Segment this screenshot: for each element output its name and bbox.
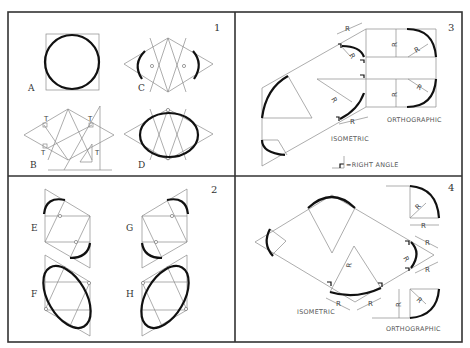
view-label: E [31,223,38,233]
perpendicular-mark: T [40,149,46,157]
dim-label: R [347,52,356,60]
view-b: T T T T B [24,106,114,170]
perpendicular-mark: T [87,115,93,123]
panel-number: 2 [211,184,217,195]
view-label: C [138,83,145,93]
dim-label: R [415,296,424,305]
isometric-label: ISOMETRIC [331,135,369,143]
view-c: C [124,38,213,93]
panel-1: 1 A C [24,22,220,170]
dim-label: R [336,300,341,308]
view-label: B [30,160,37,170]
view-g: G [126,189,188,268]
dim-label: R [345,262,354,268]
dim-label: R [425,239,430,247]
orthographic-label: ORTHOGRAPHIC [387,116,442,124]
right-angle-legend: =RIGHT ANGLE [346,161,399,169]
perpendicular-mark: T [94,149,100,157]
panel-4: 4 R R R R R R R R [255,182,454,333]
orthographic-label: ORTHOGRAPHIC [386,325,441,333]
dim-label: R [329,96,338,104]
view-label: D [138,160,145,170]
dim-label: R [395,302,403,307]
view-label: G [126,223,133,233]
view-d: D [124,108,213,170]
dim-label: R [345,25,350,33]
dim-label: R [425,266,430,274]
panel-number: 1 [214,22,220,33]
dim-label: R [401,255,410,263]
panel-number: 4 [448,182,454,193]
isometric-label: ISOMETRIC [297,308,335,316]
view-label: H [126,289,134,299]
dim-label: R [350,118,355,126]
view-a: A [27,34,99,93]
panel-2: 2 E G [31,184,217,336]
dim-label: R [421,222,426,230]
perpendicular-mark: T [43,115,49,123]
dim-label: R [414,202,423,211]
dim-label: R [391,42,399,47]
view-h: H [126,255,198,336]
view-label: F [31,289,37,299]
panel-3: 3 R R R R R [262,22,454,169]
panel-number: 3 [448,22,454,33]
isometric-arcs-figure: 1 A C [0,0,470,348]
view-label: A [27,83,35,93]
view-e: E [31,189,90,268]
dim-label: R [391,92,399,97]
dim-label: R [368,300,373,308]
